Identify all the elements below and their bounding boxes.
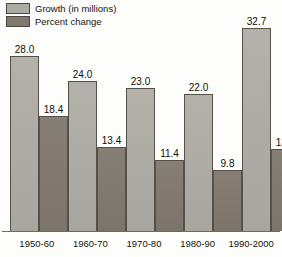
bar-growth: 32.7 xyxy=(242,28,271,231)
bar-growth: 23.0 xyxy=(126,88,155,231)
bar-group: 32.7 13.2 xyxy=(242,28,282,231)
bar-groups: 28.0 18.4 24.0 13.4 xyxy=(10,28,278,231)
bar-wrap-percent: 9.8 xyxy=(213,28,242,231)
x-axis-labels: 1950-60 1960-70 1970-80 1980-90 1990-200… xyxy=(10,235,278,255)
bar-wrap-growth: 32.7 xyxy=(242,28,271,231)
bar-value-label: 9.8 xyxy=(221,158,235,169)
bar-percent-change: 11.4 xyxy=(155,160,184,231)
bar-wrap-growth: 28.0 xyxy=(10,28,39,231)
bar-percent-change: 18.4 xyxy=(39,116,68,231)
bar-percent-change: 9.8 xyxy=(213,170,242,231)
legend-label-percent-change: Percent change xyxy=(35,16,102,27)
bar-wrap-growth: 23.0 xyxy=(126,28,155,231)
bar-group: 22.0 9.8 xyxy=(184,28,242,231)
bar-value-label: 18.4 xyxy=(44,104,63,115)
x-tick-label: 1970-80 xyxy=(117,235,171,253)
x-tick-label: 1960-70 xyxy=(64,235,118,253)
bar-group: 28.0 18.4 xyxy=(10,28,68,231)
bar-percent-change: 13.2 xyxy=(271,149,282,231)
bar-value-label: 23.0 xyxy=(131,76,150,87)
bar-value-label: 11.4 xyxy=(160,148,179,159)
legend-swatch-growth xyxy=(6,3,30,14)
legend-swatch-percent-change xyxy=(6,16,30,27)
bar-value-label: 28.0 xyxy=(15,44,34,55)
legend-item-growth: Growth (in millions) xyxy=(6,2,116,14)
bar-value-label: 32.7 xyxy=(247,16,266,27)
bar-wrap-percent: 18.4 xyxy=(39,28,68,231)
bar-growth: 24.0 xyxy=(68,81,97,231)
bar-value-label: 13.2 xyxy=(276,137,282,148)
bar-group: 24.0 13.4 xyxy=(68,28,126,231)
bar-percent-change: 13.4 xyxy=(97,147,126,231)
x-tick-label: 1990-2000 xyxy=(224,235,278,253)
legend-label-growth: Growth (in millions) xyxy=(35,3,116,14)
x-axis-line xyxy=(2,231,280,232)
bar-value-label: 13.4 xyxy=(102,135,121,146)
bar-wrap-growth: 24.0 xyxy=(68,28,97,231)
bar-wrap-percent: 13.2 xyxy=(271,28,282,231)
plot-area: 28.0 18.4 24.0 13.4 xyxy=(0,28,282,232)
bar-chart: Growth (in millions) Percent change 28.0… xyxy=(0,0,282,257)
x-tick-label: 1980-90 xyxy=(171,235,225,253)
bar-group: 23.0 11.4 xyxy=(126,28,184,231)
bar-wrap-percent: 13.4 xyxy=(97,28,126,231)
bar-wrap-growth: 22.0 xyxy=(184,28,213,231)
legend-item-percent-change: Percent change xyxy=(6,15,116,27)
chart-legend: Growth (in millions) Percent change xyxy=(6,2,116,27)
bar-value-label: 24.0 xyxy=(73,69,92,80)
bar-value-label: 22.0 xyxy=(189,82,208,93)
bar-growth: 22.0 xyxy=(184,94,213,231)
x-tick-label: 1950-60 xyxy=(10,235,64,253)
bar-growth: 28.0 xyxy=(10,56,39,231)
bar-wrap-percent: 11.4 xyxy=(155,28,184,231)
